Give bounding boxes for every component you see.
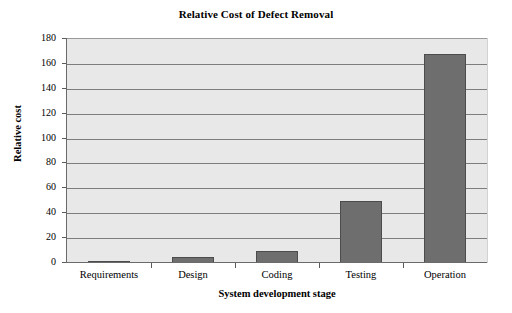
y-tick-mark	[62, 212, 66, 213]
plot-right-edge	[487, 38, 488, 263]
chart-figure: Relative Cost of Defect Removal Relative…	[0, 0, 512, 313]
y-tick-label: 80	[14, 157, 56, 167]
plot-area	[67, 38, 487, 263]
x-tick-mark	[151, 263, 152, 268]
y-tick-label: 160	[14, 58, 56, 68]
x-tick-label-design: Design	[151, 269, 235, 281]
y-tick-mark	[62, 38, 66, 39]
y-tick-mark	[62, 237, 66, 238]
y-tick-label: 100	[14, 133, 56, 143]
y-tick-mark	[62, 262, 66, 263]
x-tick-label-operation: Operation	[403, 269, 487, 281]
y-tick-mark	[62, 138, 66, 139]
x-axis-title: System development stage	[67, 288, 487, 299]
y-tick-mark	[62, 162, 66, 163]
y-tick-label: 20	[14, 232, 56, 242]
x-tick-mark	[403, 263, 404, 268]
y-axis-line	[66, 38, 67, 263]
y-tick-mark	[62, 187, 66, 188]
x-tick-label-coding: Coding	[235, 269, 319, 281]
y-tick-mark	[62, 113, 66, 114]
x-tick-mark	[235, 263, 236, 268]
y-tick-label: 60	[14, 182, 56, 192]
y-tick-label: 40	[14, 207, 56, 217]
x-tick-label-testing: Testing	[319, 269, 403, 281]
x-tick-label-requirements: Requirements	[67, 269, 151, 281]
x-tick-mark	[319, 263, 320, 268]
y-tick-label: 180	[14, 33, 56, 43]
chart-title: Relative Cost of Defect Removal	[0, 8, 512, 21]
bar-operation	[424, 54, 466, 263]
bar-testing	[340, 201, 382, 263]
x-axis-line	[66, 262, 488, 263]
y-tick-label: 140	[14, 83, 56, 93]
y-tick-mark	[62, 63, 66, 64]
y-tick-label: 0	[14, 257, 56, 267]
y-tick-mark	[62, 88, 66, 89]
y-tick-label: 120	[14, 108, 56, 118]
